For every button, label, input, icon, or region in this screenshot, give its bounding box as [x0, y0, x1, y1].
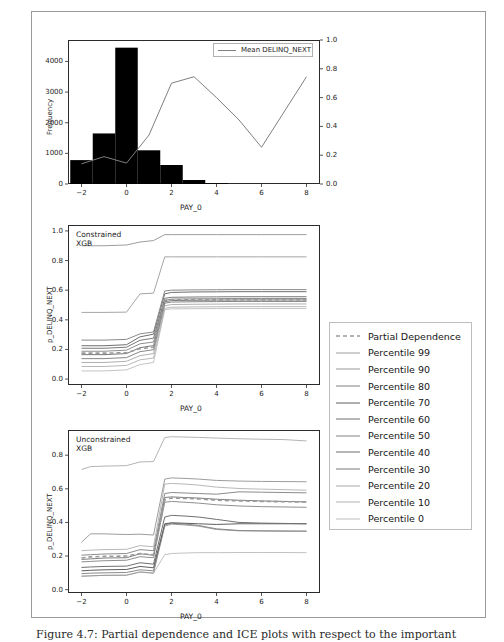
legend-item[interactable]: Percentile 50	[335, 428, 465, 445]
legend-line-swatch	[335, 398, 361, 408]
legend-label: Percentile 30	[368, 464, 430, 475]
tick-label: 0.0	[52, 375, 63, 383]
tick-label: 8	[304, 598, 308, 606]
legend-item[interactable]: Percentile 60	[335, 411, 465, 428]
tick-label: 1.0	[326, 36, 337, 44]
percentile-line	[82, 307, 307, 367]
tick-label: 6	[259, 390, 263, 398]
tick-label: 3000	[45, 88, 63, 96]
legend-item[interactable]: Percentile 20	[335, 477, 465, 494]
percentile-line	[82, 523, 307, 571]
legend-label: Percentile 70	[368, 397, 430, 408]
tick-label: 0.2	[52, 552, 63, 560]
histogram-legend: Mean DELINQ_NEXT	[213, 43, 313, 57]
legend-item[interactable]: Percentile 90	[335, 361, 465, 378]
tick-label: 0	[124, 598, 128, 606]
tick-label: 8	[304, 189, 308, 197]
tick-label: 0.8	[52, 257, 63, 265]
tick-label: 0.0	[326, 180, 337, 188]
legend-item[interactable]: Percentile 0	[335, 511, 465, 528]
tick-label: 6	[259, 598, 263, 606]
tick-label: 0	[124, 390, 128, 398]
tick-label: 0	[59, 180, 63, 188]
figure-caption: Figure 4.7: Partial dependence and ICE p…	[36, 628, 456, 642]
legend-label: Percentile 10	[368, 497, 430, 508]
tick-label: −2	[76, 390, 86, 398]
histogram-bar	[183, 180, 206, 184]
legend-line-swatch	[335, 464, 361, 474]
unconstrained-xlabel: PAY_0	[180, 612, 202, 621]
tick-label: 0.0	[52, 586, 63, 594]
legend-item[interactable]: Partial Dependence	[335, 328, 465, 345]
tick-label: 0.6	[326, 94, 337, 102]
tick-label: 8	[304, 390, 308, 398]
tick-label: 0.4	[52, 316, 63, 324]
legend-label-mean-delinq: Mean DELINQ_NEXT	[241, 46, 311, 54]
legend-line-swatch	[335, 514, 361, 524]
histogram-bar	[160, 165, 183, 184]
percentile-line	[82, 301, 307, 358]
histogram-ylabel: Frequency	[46, 99, 54, 135]
legend-item[interactable]: Percentile 40	[335, 444, 465, 461]
tick-label: 4	[214, 598, 218, 606]
unconstrained-annotation: Unconstrained XGB	[76, 435, 130, 453]
legend-label: Percentile 0	[368, 513, 424, 524]
tick-label: 1.0	[52, 227, 63, 235]
tick-label: 4	[214, 390, 218, 398]
panel-histogram: Frequency PAY_0 Mean DELINQ_NEXT 0100020…	[0, 0, 504, 225]
legend-label: Percentile 80	[368, 381, 430, 392]
histogram-xlabel: PAY_0	[180, 203, 202, 212]
legend-label: Partial Dependence	[368, 331, 461, 342]
tick-label: 4000	[45, 57, 63, 65]
legend-label: Percentile 50	[368, 430, 430, 441]
legend-line-swatch	[335, 414, 361, 424]
legend-line-swatch	[335, 364, 361, 374]
legend-line-swatch	[335, 481, 361, 491]
legend-line-swatch	[218, 50, 236, 51]
legend-line-swatch	[335, 447, 361, 457]
tick-label: 0.6	[52, 485, 63, 493]
histogram-bar	[205, 183, 228, 184]
tick-label: 4	[214, 189, 218, 197]
tick-label: 0.2	[326, 151, 337, 159]
legend-line-swatch	[335, 348, 361, 358]
tick-label: 2	[169, 598, 173, 606]
legend-item[interactable]: Percentile 80	[335, 378, 465, 395]
percentile-legend: Partial DependencePercentile 99Percentil…	[329, 322, 472, 530]
tick-label: 0.4	[326, 122, 337, 130]
legend-line-swatch	[335, 331, 361, 341]
histogram-bar	[138, 150, 161, 184]
tick-label: 0.8	[326, 65, 337, 73]
legend-item[interactable]: Percentile 99	[335, 345, 465, 362]
legend-line-swatch	[335, 497, 361, 507]
legend-label: Percentile 60	[368, 414, 430, 425]
tick-label: 2000	[45, 119, 63, 127]
percentile-line	[82, 478, 307, 542]
tick-label: 0.4	[52, 518, 63, 526]
percentile-line	[82, 524, 307, 576]
tick-label: 1000	[45, 149, 63, 157]
tick-label: 2	[169, 189, 173, 197]
tick-label: 0.2	[52, 345, 63, 353]
constrained-annotation: Constrained XGB	[76, 230, 121, 248]
legend-label: Percentile 20	[368, 480, 430, 491]
legend-label: Percentile 90	[368, 364, 430, 375]
legend-label: Percentile 40	[368, 447, 430, 458]
percentile-line	[82, 497, 307, 560]
constrained-xlabel: PAY_0	[180, 404, 202, 413]
legend-line-swatch	[335, 381, 361, 391]
tick-label: 6	[259, 189, 263, 197]
tick-label: −2	[76, 598, 86, 606]
constrained-ylabel: p_DELINQ_NEXT	[46, 286, 54, 343]
tick-label: 2	[169, 390, 173, 398]
legend-label: Percentile 99	[368, 347, 430, 358]
tick-label: −2	[76, 189, 86, 197]
legend-line-swatch	[335, 431, 361, 441]
tick-label: 0	[124, 189, 128, 197]
tick-label: 0.8	[52, 451, 63, 459]
legend-item[interactable]: Percentile 70	[335, 394, 465, 411]
legend-item[interactable]: Percentile 30	[335, 461, 465, 478]
tick-label: 0.6	[52, 286, 63, 294]
legend-item[interactable]: Percentile 10	[335, 494, 465, 511]
